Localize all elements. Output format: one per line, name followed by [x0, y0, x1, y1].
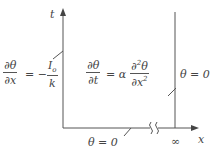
governing-equation: ∂θ ∂t = α ∂2θ ∂x2: [86, 60, 152, 90]
t-axis-arrowhead: [60, 8, 66, 16]
initial-condition: θ = 0: [88, 137, 118, 148]
governing-equals-alpha: = α: [106, 69, 126, 80]
infinity-label: ∞: [171, 136, 180, 147]
left-bc-equals: = −: [25, 69, 47, 80]
x-axis-label: x: [198, 134, 204, 145]
io-over-k-fraction: Io k: [47, 60, 58, 89]
dtheta-dt-fraction: ∂θ ∂t: [86, 60, 100, 86]
left-bc-leader: [53, 51, 63, 59]
second-derivative-fraction: ∂2θ ∂x2: [130, 60, 149, 87]
dtheta-dx-fraction: ∂θ ∂x: [3, 60, 17, 86]
x-axis-arrowhead: [191, 125, 199, 131]
initial-condition-leader: [124, 128, 131, 136]
t-axis-label: t: [50, 9, 54, 20]
right-boundary-condition: θ = 0: [180, 69, 210, 80]
axis-break-icon: [150, 122, 159, 134]
left-boundary-condition: ∂θ ∂x = − Io k: [3, 60, 61, 90]
